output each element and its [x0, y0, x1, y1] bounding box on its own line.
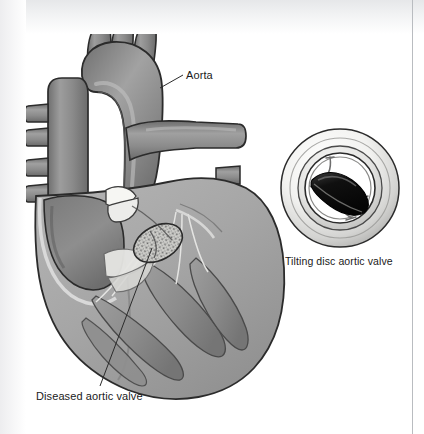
- superior-vena-cava: [48, 78, 88, 200]
- caption-tilting-disc-aortic-valve: Tilting disc aortic valve: [285, 255, 393, 268]
- heart-body-group: [35, 178, 284, 399]
- label-aorta: Aorta: [186, 69, 213, 82]
- tilting-disc-valve-inset: [281, 129, 399, 247]
- pulmonary-vein-1: [25, 104, 48, 122]
- figure-container: Aorta Diseased aortic valve Tilting disc…: [0, 0, 424, 434]
- heart-illustration: [0, 0, 424, 434]
- strut-anchor-top: [326, 157, 334, 158]
- leader-line-aorta: [160, 75, 183, 88]
- label-diseased-aortic-valve: Diseased aortic valve: [36, 390, 143, 403]
- pulmonary-vein-2: [25, 128, 48, 146]
- pulmonary-vein-3: [25, 158, 48, 176]
